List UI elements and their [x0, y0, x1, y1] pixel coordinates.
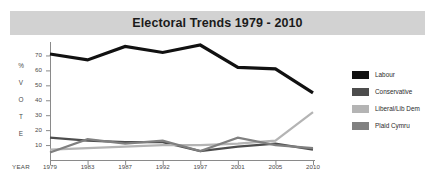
y-axis-caption-letter: % — [17, 62, 25, 69]
data-series — [50, 45, 313, 153]
y-axis-caption-letter: T — [17, 113, 25, 120]
y-axis-caption-letter: V — [17, 79, 25, 86]
y-axis-caption-letter: E — [17, 130, 25, 137]
y-tick-label: 60 — [28, 66, 42, 73]
legend-item: Liberal/Lib Dem — [352, 102, 440, 116]
legend-label: Plaid Cymru — [375, 122, 410, 130]
y-tick-label: 10 — [28, 141, 42, 148]
x-tick-label: 1979 — [35, 163, 65, 170]
x-tick-label: 1987 — [110, 163, 140, 170]
chart-legend: LabourConservativeLiberal/Lib DemPlaid C… — [352, 68, 440, 136]
x-tick-label: 1983 — [73, 163, 103, 170]
legend-item: Labour — [352, 68, 440, 82]
y-axis-caption-letter: O — [17, 96, 25, 103]
x-tick-label: 1997 — [185, 163, 215, 170]
y-tick-label: 30 — [28, 111, 42, 118]
y-tick-label: 40 — [28, 96, 42, 103]
x-tick-label: 2010 — [298, 163, 328, 170]
legend-label: Liberal/Lib Dem — [375, 105, 420, 113]
legend-swatch-icon — [352, 88, 369, 96]
legend-swatch-icon — [352, 105, 369, 113]
x-tick-label: 2005 — [260, 163, 290, 170]
legend-item: Plaid Cymru — [352, 119, 440, 133]
y-tick-label: 50 — [28, 81, 42, 88]
x-tick-label: 2001 — [223, 163, 253, 170]
legend-swatch-icon — [352, 122, 369, 130]
legend-label: Labour — [375, 71, 395, 79]
legend-item: Conservative — [352, 85, 440, 99]
legend-swatch-icon — [352, 71, 369, 79]
x-tick-label: 1992 — [148, 163, 178, 170]
chart-screenshot: Electoral Trends 1979 - 2010 %VOTE 70605… — [0, 0, 440, 180]
x-axis-caption: YEAR — [12, 163, 30, 170]
y-tick-label: 70 — [28, 51, 42, 58]
y-tick-label: 20 — [28, 126, 42, 133]
legend-label: Conservative — [375, 88, 412, 96]
series-line-labour — [50, 45, 313, 93]
y-axis-ticks — [46, 56, 50, 146]
